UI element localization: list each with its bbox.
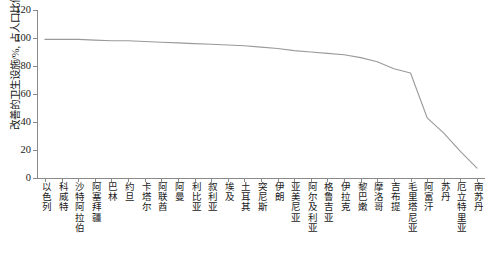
x-axis-category-label: 伊朗 bbox=[272, 182, 284, 202]
x-axis-category-label: 苏丹 bbox=[438, 182, 450, 202]
series-line bbox=[45, 39, 477, 168]
x-axis-category-label: 阿尔及利亚 bbox=[305, 182, 317, 233]
x-axis-category-label: 土耳其 bbox=[238, 182, 250, 213]
x-axis-category-label: 阿富汗 bbox=[421, 182, 433, 213]
y-axis-tick-label: 120 bbox=[1, 4, 31, 15]
x-axis-category-label: 黎巴嫩 bbox=[355, 182, 367, 213]
x-axis-category-label: 沙特阿拉伯 bbox=[72, 182, 84, 233]
x-axis-category-label: 科威特 bbox=[56, 182, 68, 213]
x-axis-category-label: 巴林 bbox=[105, 182, 117, 202]
y-axis-tick-label: 20 bbox=[1, 144, 31, 155]
series-svg bbox=[37, 10, 485, 178]
x-axis-category-label: 利比亚 bbox=[189, 182, 201, 213]
y-axis-tick bbox=[33, 150, 37, 151]
y-axis-tick-label: 100 bbox=[1, 32, 31, 43]
y-axis-tick bbox=[33, 38, 37, 39]
y-axis-tick-label: 80 bbox=[1, 60, 31, 71]
x-axis-category-label: 约旦 bbox=[122, 182, 134, 202]
x-axis-category-label: 摩洛哥 bbox=[371, 182, 383, 213]
x-axis-category-label: 卡塔尔 bbox=[139, 182, 151, 213]
x-axis-category-label: 吉布提 bbox=[388, 182, 400, 213]
x-axis-category-label: 阿联酋 bbox=[155, 182, 167, 213]
y-axis-tick-label: 40 bbox=[1, 116, 31, 127]
x-axis-category-label: 厄立特里亚 bbox=[454, 182, 466, 233]
x-axis-category-label: 阿曼 bbox=[172, 182, 184, 202]
y-axis-tick bbox=[33, 94, 37, 95]
x-axis-category-label: 伊拉克 bbox=[338, 182, 350, 213]
plot-area: 020406080100120 bbox=[37, 10, 485, 178]
x-axis-category-label: 格鲁吉亚 bbox=[321, 182, 333, 223]
x-axis-category-label: 突尼斯 bbox=[255, 182, 267, 213]
x-axis-category-label: 南苏丹 bbox=[471, 182, 483, 213]
x-axis-labels: 以色列科威特沙特阿拉伯阿塞拜疆巴林约旦卡塔尔阿联酋阿曼利比亚叙利亚埃及土耳其突尼… bbox=[37, 182, 485, 253]
x-axis-category-label: 埃及 bbox=[222, 182, 234, 202]
y-axis-tick-label: 60 bbox=[1, 88, 31, 99]
x-axis-category-label: 毛里塔尼亚 bbox=[405, 182, 417, 233]
line-chart: 改善的卫生设施/%, 占人口比例) 020406080100120 以色列科威特… bbox=[0, 0, 489, 253]
y-axis-tick bbox=[33, 10, 37, 11]
y-axis-tick bbox=[33, 178, 37, 179]
x-axis-category-label: 亚美尼亚 bbox=[288, 182, 300, 223]
y-axis-tick-label: 0 bbox=[1, 172, 31, 183]
y-axis-tick bbox=[33, 66, 37, 67]
x-axis-category-label: 阿塞拜疆 bbox=[89, 182, 101, 223]
x-axis-category-label: 叙利亚 bbox=[205, 182, 217, 213]
x-axis-category-label: 以色列 bbox=[39, 182, 51, 213]
y-axis-tick bbox=[33, 122, 37, 123]
